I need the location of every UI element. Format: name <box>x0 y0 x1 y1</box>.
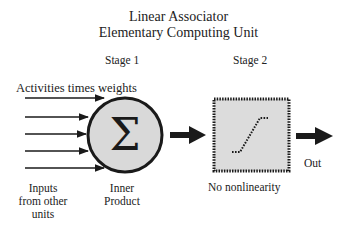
sigma-icon: Σ <box>109 109 140 160</box>
output-label: Out <box>304 158 321 170</box>
stage-connector-arrow <box>170 126 206 144</box>
summation-node: Σ <box>88 98 162 172</box>
output-arrow <box>296 127 333 145</box>
inner-product-label: Inner Product <box>97 182 147 208</box>
inputs-label: Inputs from other units <box>18 182 68 221</box>
linear-function-box <box>214 99 289 171</box>
no-nonlinearity-label: No nonlinearity <box>208 182 281 194</box>
